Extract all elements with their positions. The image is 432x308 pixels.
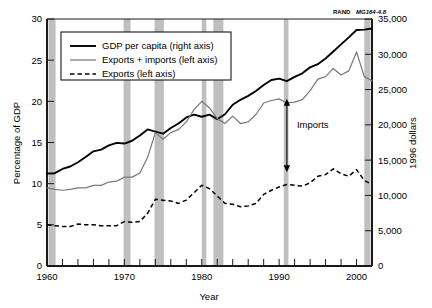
chart-canvas: RAND MG164-4.8 Imports 051015202530 05,0…	[0, 0, 432, 308]
y-axis-right-tick-label: 35,000	[378, 13, 407, 24]
legend-label: GDP per capita (right axis)	[102, 40, 214, 51]
legend-label: Exports (left axis)	[102, 68, 175, 79]
imports-annotation: Imports	[284, 99, 329, 172]
x-axis-tick-label: 2000	[346, 271, 367, 282]
y-axis-right-tick-label: 30,000	[378, 49, 407, 60]
y-axis-right-tick-label: 20,000	[378, 119, 407, 130]
y-axis-left-tick-label: 25	[31, 55, 42, 66]
y-axis-right-tick-label: 0	[378, 260, 383, 271]
series-line-exports	[47, 169, 372, 227]
x-axis-title: Year	[199, 291, 218, 302]
y-axis-right-title: 1996 dollars	[407, 117, 418, 169]
y-axis-left-tick-label: 10	[31, 178, 42, 189]
y-axis-left-tick-label: 30	[31, 13, 42, 24]
x-axis-tick-label: 1960	[36, 271, 57, 282]
recession-band	[364, 19, 370, 266]
x-axis-tick-labels: 19601970198019902000	[36, 271, 367, 282]
y-axis-left-tick-label: 0	[37, 260, 42, 271]
y-axis-left-tick-labels: 051015202530	[31, 13, 42, 271]
recession-band	[284, 19, 289, 266]
y-axis-right-tick-label: 5,000	[378, 225, 402, 236]
y-axis-left-tick-label: 20	[31, 96, 42, 107]
chart-legend: GDP per capita (right axis)Exports + imp…	[61, 32, 231, 80]
y-axis-right-tick-label: 25,000	[378, 84, 407, 95]
y-axis-left-title: Percentage of GDP	[11, 102, 22, 184]
legend-label: Exports + imports (left axis)	[102, 54, 217, 65]
x-axis-minor-ticks	[47, 259, 372, 266]
x-axis-tick-label: 1990	[269, 271, 290, 282]
y-axis-left-tick-label: 5	[37, 219, 42, 230]
chart-figure: RAND MG164-4.8 Imports 051015202530 05,0…	[0, 0, 432, 308]
imports-annotation-label: Imports	[297, 119, 329, 130]
x-axis-tick-label: 1980	[191, 271, 212, 282]
source-brand-label: RAND	[333, 9, 351, 15]
y-axis-left-tick-label: 15	[31, 137, 42, 148]
x-axis-tick-label: 1970	[114, 271, 135, 282]
y-axis-right-tick-label: 10,000	[378, 190, 407, 201]
y-axis-right-tick-labels: 05,00010,00015,00020,00025,00030,00035,0…	[378, 13, 407, 271]
y-axis-right-tick-label: 15,000	[378, 155, 407, 166]
